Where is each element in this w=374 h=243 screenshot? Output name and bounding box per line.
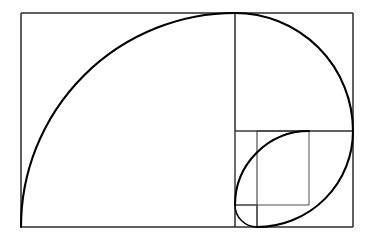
fibonacci-spiral-figure [0, 0, 374, 243]
